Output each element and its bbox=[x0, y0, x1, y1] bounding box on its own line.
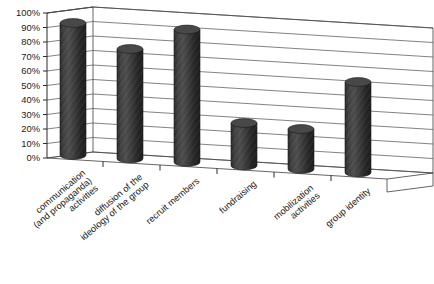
y-tick-label: 100% bbox=[16, 7, 40, 18]
category-label: mobilization activities bbox=[272, 183, 322, 230]
y-axis-tick-labels: 100% 90% 80% 70% 60% 50% 40% 30% 20% 10%… bbox=[16, 7, 40, 163]
y-tick-label: 20% bbox=[21, 123, 40, 134]
y-tick-label: 10% bbox=[21, 138, 40, 149]
category-label-line: fundraising bbox=[217, 179, 258, 216]
category-label: recruit members bbox=[144, 176, 202, 227]
category-label-line: recruit members bbox=[144, 176, 202, 227]
bar-chart-3d: 100% 90% 80% 70% 60% 50% 40% 30% 20% 10%… bbox=[0, 0, 434, 284]
x-axis-category-labels: communication (and propaganda) activitie… bbox=[25, 168, 373, 243]
y-tick-label: 0% bbox=[26, 152, 40, 163]
y-tick-label: 80% bbox=[21, 36, 40, 47]
bar-cylinder bbox=[288, 125, 314, 174]
chart-container: 100% 90% 80% 70% 60% 50% 40% 30% 20% 10%… bbox=[0, 0, 434, 284]
y-tick-label: 90% bbox=[21, 22, 40, 33]
y-tick-label: 60% bbox=[21, 65, 40, 76]
bar-cylinder bbox=[231, 119, 257, 170]
y-tick-label: 30% bbox=[21, 109, 40, 120]
bar-cylinder bbox=[345, 78, 371, 177]
bar-cylinder bbox=[60, 19, 86, 160]
category-label: group identity bbox=[324, 186, 373, 229]
y-axis bbox=[43, 13, 47, 158]
bar-cylinder bbox=[174, 25, 200, 166]
bar-cylinder bbox=[117, 45, 143, 163]
y-tick-label: 70% bbox=[21, 51, 40, 62]
y-tick-label: 50% bbox=[21, 80, 40, 91]
category-label-line: group identity bbox=[324, 186, 373, 229]
y-tick-label: 40% bbox=[21, 94, 40, 105]
category-label: fundraising bbox=[217, 179, 258, 216]
